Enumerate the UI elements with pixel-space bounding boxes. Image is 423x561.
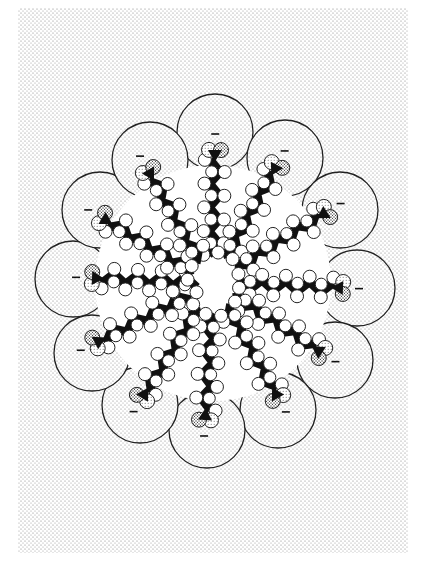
hydrogen-atom: [162, 218, 175, 231]
hydrogen-atom: [165, 309, 178, 322]
hydrogen-atom: [269, 182, 282, 195]
hydrogen-atom: [244, 275, 256, 287]
hydrogen-atom: [131, 319, 143, 331]
hydrogen-atom: [259, 307, 271, 319]
hydrogen-atom: [299, 333, 311, 345]
hydrogen-atom: [273, 307, 286, 320]
hydrogen-atom: [191, 367, 204, 380]
hydrogen-atom: [155, 278, 167, 290]
hydrogen-atom: [256, 268, 269, 281]
hydrogen-atom: [173, 297, 185, 309]
hydrogen-atom: [212, 246, 225, 259]
hydrogen-atom: [113, 226, 125, 238]
hydrogen-atom: [252, 317, 265, 330]
hydrogen-atom: [166, 285, 179, 298]
hydrogen-atom: [199, 307, 212, 320]
hydrogen-atom: [240, 330, 252, 342]
hydrogen-atom: [229, 295, 242, 308]
hydrogen-atom: [235, 219, 247, 231]
hydrogen-atom: [233, 281, 246, 294]
hydrogen-atom: [160, 238, 173, 251]
hydrogen-atom: [206, 166, 218, 178]
hydrogen-atom: [186, 246, 198, 258]
hydrogen-atom: [234, 204, 247, 217]
hydrogen-atom: [123, 330, 136, 343]
hydrogen-atom: [173, 239, 186, 252]
hydrogen-atom: [161, 261, 174, 274]
hydrogen-atom: [205, 190, 217, 202]
hydrogen-atom: [144, 319, 157, 332]
hydrogen-atom: [173, 198, 186, 211]
hydrogen-atom: [174, 226, 186, 238]
hydrogen-atom: [140, 226, 153, 239]
hydrogen-atom: [205, 213, 217, 225]
hydrogen-atom: [303, 270, 316, 283]
hydrogen-atom: [187, 328, 200, 341]
hydrogen-atom: [161, 177, 174, 190]
hydrogen-atom: [198, 177, 211, 190]
hydrogen-atom: [154, 250, 166, 262]
hydrogen-atom: [252, 351, 264, 363]
hydrogen-atom: [247, 198, 259, 210]
hydrogen-atom: [162, 205, 174, 217]
hydrogen-atom: [307, 226, 320, 239]
hydrogen-atom: [103, 318, 116, 331]
hydrogen-atom: [240, 253, 252, 265]
hydrogen-atom: [240, 316, 253, 329]
hydrogen-atom: [266, 227, 279, 240]
hydrogen-atom: [185, 260, 198, 273]
hydrogen-atom: [163, 355, 175, 367]
hydrogen-atom: [119, 283, 132, 296]
hydrogen-atom: [258, 203, 271, 216]
hydrogen-atom: [292, 277, 304, 289]
hydrogen-atom: [185, 219, 198, 232]
hydrogen-atom: [197, 239, 210, 252]
hydrogen-atom: [203, 392, 215, 404]
hydrogen-atom: [175, 335, 187, 347]
hydrogen-atom: [174, 348, 187, 361]
hydrogen-atom: [150, 198, 163, 211]
hydrogen-atom: [206, 345, 218, 357]
hydrogen-atom: [110, 330, 122, 342]
hydrogen-atom: [210, 380, 223, 393]
hydrogen-atom: [301, 215, 313, 227]
hydrogen-atom: [279, 269, 292, 282]
hydrogen-atom: [215, 309, 228, 322]
hydrogen-atom: [125, 307, 138, 320]
hydrogen-atom: [217, 213, 230, 226]
hydrogen-atom: [292, 343, 305, 356]
hydrogen-atom: [212, 357, 225, 370]
hydrogen-atom: [291, 290, 304, 303]
hydrogen-atom: [264, 357, 277, 370]
hydrogen-atom: [218, 189, 231, 202]
hydrogen-atom: [152, 308, 164, 320]
hydrogen-atom: [281, 228, 293, 240]
hydrogen-atom: [267, 289, 280, 302]
hydrogen-atom: [240, 357, 253, 370]
hydrogen-atom: [146, 296, 159, 309]
hydrogen-atom: [108, 262, 121, 275]
hydrogen-atom: [264, 371, 276, 383]
hydrogen-atom: [120, 237, 133, 250]
hydrogen-atom: [213, 333, 226, 346]
hydrogen-atom: [131, 263, 144, 276]
hydrogen-atom: [226, 253, 239, 266]
hydrogen-atom: [272, 330, 285, 343]
hydrogen-atom: [218, 166, 231, 179]
micelle-diagram: [0, 0, 423, 561]
hydrogen-atom: [314, 291, 327, 304]
hydrogen-atom: [205, 369, 217, 381]
hydrogen-atom: [150, 375, 162, 387]
hydrogen-atom: [267, 251, 280, 264]
hydrogen-atom: [193, 344, 206, 357]
hydrogen-atom: [279, 320, 291, 332]
hydrogen-atom: [140, 249, 153, 262]
hydrogen-atom: [229, 336, 242, 349]
hydrogen-atom: [246, 224, 259, 237]
hydrogen-atom: [187, 298, 200, 311]
hydrogen-atom: [246, 183, 259, 196]
hydrogen-atom: [162, 368, 175, 381]
hydrogen-atom: [232, 267, 245, 280]
hydrogen-atom: [224, 239, 236, 251]
hydrogen-atom: [187, 314, 199, 326]
